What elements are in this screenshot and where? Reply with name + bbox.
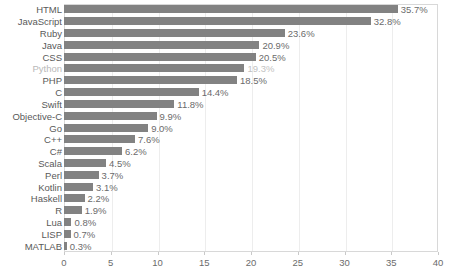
bar-row: Scala4.5%	[0, 158, 458, 169]
x-tick-mark	[204, 252, 205, 255]
value-label: 19.3%	[247, 63, 274, 74]
x-tick-label: 20	[236, 257, 266, 268]
bar	[64, 76, 237, 84]
category-label: R	[55, 205, 62, 216]
bar	[64, 124, 148, 132]
category-label: MATLAB	[25, 241, 62, 252]
bar-row: PHP18.5%	[0, 75, 458, 86]
value-label: 18.5%	[240, 75, 267, 86]
x-tick-mark	[298, 252, 299, 255]
bar-row: Java20.9%	[0, 40, 458, 51]
category-label: Java	[42, 40, 62, 51]
bar-row: Haskell2.2%	[0, 193, 458, 204]
value-label: 9.9%	[160, 111, 182, 122]
x-tick-mark	[111, 252, 112, 255]
bar-row: HTML35.7%	[0, 4, 458, 15]
bar	[64, 147, 122, 155]
bar-chart: HTML35.7%JavaScript32.8%Ruby23.6%Java20.…	[0, 0, 458, 279]
category-label: C++	[44, 134, 62, 145]
bar-row: C#6.2%	[0, 146, 458, 157]
bar-row: CSS20.5%	[0, 52, 458, 63]
bar	[64, 100, 174, 108]
bar-row: JavaScript32.8%	[0, 16, 458, 27]
bar	[64, 88, 199, 96]
bar-rows: HTML35.7%JavaScript32.8%Ruby23.6%Java20.…	[0, 4, 458, 252]
bar-row: Lua0.8%	[0, 217, 458, 228]
x-tick-label: 25	[283, 257, 313, 268]
category-label: LISP	[41, 229, 62, 240]
x-tick-label: 15	[189, 257, 219, 268]
x-tick-label: 40	[423, 257, 453, 268]
bar	[64, 206, 82, 214]
x-tick-mark	[251, 252, 252, 255]
bar-row: Python19.3%	[0, 63, 458, 74]
value-label: 20.9%	[262, 40, 289, 51]
bar	[64, 194, 85, 202]
category-label: Perl	[45, 170, 62, 181]
x-tick-label: 0	[49, 257, 79, 268]
value-label: 3.1%	[96, 182, 118, 193]
category-label: C#	[50, 146, 62, 157]
category-label: Scala	[38, 158, 62, 169]
bar-row: Perl3.7%	[0, 170, 458, 181]
category-label: Haskell	[31, 193, 62, 204]
x-tick-mark	[391, 252, 392, 255]
x-tick-mark	[345, 252, 346, 255]
value-label: 0.7%	[74, 229, 96, 240]
category-label: CSS	[42, 52, 62, 63]
value-label: 14.4%	[202, 87, 229, 98]
bar-row: Ruby23.6%	[0, 28, 458, 39]
bar	[64, 112, 157, 120]
x-tick-mark	[438, 252, 439, 255]
value-label: 23.6%	[288, 28, 315, 39]
bar-row: Kotlin3.1%	[0, 182, 458, 193]
category-label: Go	[49, 123, 62, 134]
bar	[64, 5, 398, 13]
x-tick-label: 30	[330, 257, 360, 268]
value-label: 20.5%	[259, 52, 286, 63]
x-tick-label: 10	[143, 257, 173, 268]
category-label: Swift	[41, 99, 62, 110]
value-label: 11.8%	[177, 99, 203, 110]
bar-row: Swift11.8%	[0, 99, 458, 110]
bar	[64, 53, 256, 61]
x-tick-mark	[158, 252, 159, 255]
bar	[64, 171, 99, 179]
category-label: HTML	[36, 4, 62, 15]
value-label: 2.2%	[88, 193, 110, 204]
value-label: 35.7%	[401, 4, 428, 15]
bar-row: Objective-C9.9%	[0, 111, 458, 122]
value-label: 0.3%	[70, 241, 92, 252]
category-label: Python	[32, 63, 62, 74]
category-label: Objective-C	[12, 111, 62, 122]
bar	[64, 29, 285, 37]
x-tick-mark	[64, 252, 65, 255]
bar	[64, 41, 259, 49]
bar	[64, 218, 71, 226]
bar-row: LISP0.7%	[0, 229, 458, 240]
bar	[64, 183, 93, 191]
value-label: 7.6%	[138, 134, 160, 145]
bar	[64, 159, 106, 167]
bar	[64, 135, 135, 143]
bar	[64, 17, 371, 25]
value-label: 0.8%	[74, 217, 96, 228]
bar-row: Go9.0%	[0, 123, 458, 134]
value-label: 6.2%	[125, 146, 147, 157]
value-label: 9.0%	[151, 123, 173, 134]
value-label: 3.7%	[102, 170, 124, 181]
bar	[64, 230, 71, 238]
category-label: PHP	[42, 75, 62, 86]
bar	[64, 242, 67, 250]
value-label: 32.8%	[374, 16, 401, 27]
category-label: JavaScript	[18, 16, 62, 27]
bar-row: R1.9%	[0, 205, 458, 216]
x-axis: 0510152025303540	[0, 252, 458, 279]
value-label: 1.9%	[85, 205, 107, 216]
value-label: 4.5%	[109, 158, 131, 169]
x-tick-label: 35	[376, 257, 406, 268]
category-label: Kotlin	[38, 182, 62, 193]
bar	[64, 64, 244, 72]
bar-row: C++7.6%	[0, 134, 458, 145]
category-label: Lua	[46, 217, 62, 228]
